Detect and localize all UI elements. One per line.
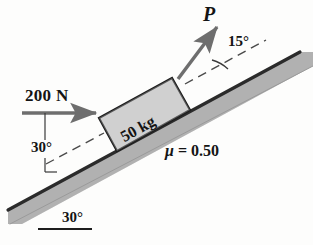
label-angle-15: 15° [228, 34, 249, 49]
label-angle-30-incline: 30° [62, 210, 83, 225]
incline-band-texture [8, 52, 313, 224]
label-mu-value: = 0.50 [178, 142, 219, 159]
physics-diagram-incline-block: 200 N P 15° 30° 30° 50 kg μ = 0.50 [0, 0, 313, 245]
incline-parallel-dashed-line-left [46, 133, 104, 164]
diagram-canvas [0, 0, 313, 245]
label-200n: 200 N [25, 87, 69, 104]
label-friction-coefficient: μ = 0.50 [165, 143, 219, 159]
incline-surface [8, 52, 313, 224]
label-mu-symbol: μ [165, 142, 174, 159]
label-angle-30-force: 30° [31, 140, 52, 155]
label-force-p: P [203, 4, 215, 24]
force-arrow-p [178, 27, 217, 79]
